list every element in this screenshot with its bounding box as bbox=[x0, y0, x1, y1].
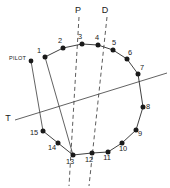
vertex-label-12: 12 bbox=[85, 155, 93, 164]
figure-svg: 123456789101112131415 PILOT P D T bbox=[0, 0, 170, 188]
connector-pilot-to-15 bbox=[31, 61, 43, 131]
vertex-label-15: 15 bbox=[30, 128, 38, 137]
vertex-label-1: 1 bbox=[37, 46, 41, 55]
connectors-group bbox=[31, 57, 73, 155]
connector-point1-to-point13 bbox=[45, 57, 73, 155]
reference-label-d: D bbox=[102, 5, 109, 15]
pilot-marker-dot bbox=[29, 59, 34, 64]
vertex-marker-3 bbox=[80, 42, 85, 47]
vertex-label-9: 9 bbox=[138, 129, 142, 138]
vertex-label-8: 8 bbox=[146, 102, 150, 111]
vertex-marker-1 bbox=[43, 55, 48, 60]
vertex-label-7: 7 bbox=[140, 63, 144, 72]
vertex-label-6: 6 bbox=[128, 48, 132, 57]
vertex-label-14: 14 bbox=[48, 143, 56, 152]
vertex-label-4: 4 bbox=[95, 33, 99, 42]
vertex-marker-6 bbox=[125, 57, 130, 62]
vertex-marker-7 bbox=[136, 72, 141, 77]
reference-label-t: T bbox=[5, 113, 11, 123]
pilot-label: PILOT bbox=[9, 55, 27, 61]
annotations-group: PILOT P D T bbox=[5, 5, 109, 123]
vertex-label-3: 3 bbox=[78, 32, 82, 41]
vertex-label-13: 13 bbox=[66, 157, 74, 166]
diagram-canvas: 123456789101112131415 PILOT P D T bbox=[0, 0, 170, 188]
reference-label-p: P bbox=[75, 5, 81, 15]
vertex-label-5: 5 bbox=[112, 38, 116, 47]
vertex-marker-14 bbox=[56, 141, 61, 146]
reference-line-t bbox=[15, 73, 167, 120]
vertex-labels-group: 123456789101112131415 bbox=[30, 32, 150, 166]
vertex-markers-group bbox=[41, 42, 146, 158]
vertex-marker-8 bbox=[141, 105, 146, 110]
vertex-marker-2 bbox=[61, 46, 66, 51]
vertex-label-10: 10 bbox=[119, 144, 127, 153]
vertex-marker-5 bbox=[111, 48, 116, 53]
vertex-marker-4 bbox=[96, 43, 101, 48]
vertex-marker-15 bbox=[41, 129, 46, 134]
vertex-label-2: 2 bbox=[58, 36, 62, 45]
vertex-label-11: 11 bbox=[103, 153, 111, 162]
